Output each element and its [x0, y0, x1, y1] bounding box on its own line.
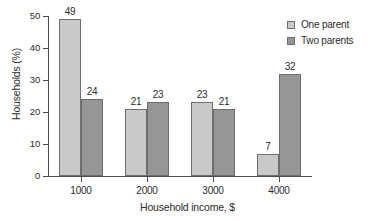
- x-tick: [147, 177, 148, 182]
- bar-value-label: 7: [265, 141, 270, 152]
- x-tick-label: 4000: [268, 185, 289, 196]
- x-tick: [81, 177, 82, 182]
- y-tick-label: 30: [22, 74, 40, 85]
- y-tick-label: 20: [22, 106, 40, 117]
- bar-value-label: 23: [197, 89, 208, 100]
- bar-value-label: 24: [87, 86, 98, 97]
- x-tick-label: 2000: [136, 185, 157, 196]
- bar-two-parents-4000: [279, 74, 301, 176]
- bar-one-parent-3000: [191, 102, 213, 176]
- legend-item-two-parents[interactable]: Two parents: [287, 34, 353, 47]
- legend-swatch-icon: [287, 37, 295, 45]
- bar-value-label: 32: [285, 61, 296, 72]
- x-axis-line: [48, 176, 312, 177]
- chart-legend: One parentTwo parents: [287, 18, 353, 50]
- y-tick-label: 0: [22, 170, 40, 181]
- x-tick-label: 3000: [202, 185, 223, 196]
- bar-chart: Households (%) Household income, $ 01020…: [0, 0, 375, 221]
- bar-one-parent-1000: [59, 19, 81, 176]
- x-tick-label: 1000: [70, 185, 91, 196]
- y-tick-label: 40: [22, 42, 40, 53]
- bar-value-label: 49: [65, 6, 76, 17]
- y-axis-title: Households (%): [10, 14, 22, 154]
- x-tick: [213, 177, 214, 182]
- bar-value-label: 21: [131, 96, 142, 107]
- y-tick-label: 10: [22, 138, 40, 149]
- x-tick: [279, 177, 280, 182]
- bar-one-parent-4000: [257, 154, 279, 176]
- bar-one-parent-2000: [125, 109, 147, 176]
- y-tick-label: 50: [22, 10, 40, 21]
- bar-value-label: 21: [219, 96, 230, 107]
- x-axis-title: Household income, $: [0, 201, 375, 213]
- bar-two-parents-3000: [213, 109, 235, 176]
- legend-item-label: Two parents: [301, 35, 353, 46]
- legend-item-one-parent[interactable]: One parent: [287, 18, 353, 31]
- bar-two-parents-2000: [147, 102, 169, 176]
- bar-two-parents-1000: [81, 99, 103, 176]
- legend-item-label: One parent: [301, 19, 349, 30]
- bar-value-label: 23: [153, 89, 164, 100]
- legend-swatch-icon: [287, 21, 295, 29]
